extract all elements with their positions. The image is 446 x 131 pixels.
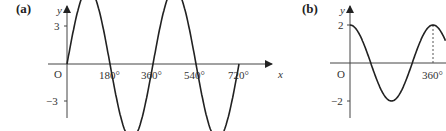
panel-label-b: (b) [302,1,318,16]
x-tick-label-180: 180° [99,69,120,81]
x-axis-label-a: x [277,68,283,80]
y-axis-label-b: y [339,4,345,16]
sine-curve-a [67,0,239,131]
x-tick-label-540: 540° [184,69,205,81]
origin-label-b: O [337,68,345,80]
panel-label-a: (a) [16,1,31,16]
y-tick-label-neg3: −3 [46,95,58,107]
origin-label-a: O [54,68,62,80]
chart-a: (a) y x O 3 −3 180° 360° 540° 720° [16,0,283,131]
y-tick-label-neg2: −2 [331,95,343,107]
y-tick-label-2: 2 [338,19,344,31]
figure-canvas: (a) y x O 3 −3 180° 360° 540° 720° (b) y… [0,0,446,131]
y-tick-label-3: 3 [54,20,60,32]
chart-b: (b) y O 2 −2 360° [302,1,446,118]
x-tick-label-360-b: 360° [422,69,443,81]
y-axis-label-a: y [56,4,62,16]
